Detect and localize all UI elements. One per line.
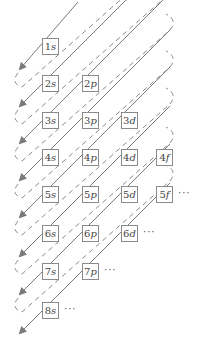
orbital-box-2p: 2p <box>82 75 99 92</box>
orbital-letter: d <box>129 152 135 163</box>
orbital-box-6p: 6p <box>82 225 99 242</box>
orbital-letter: s <box>51 266 56 277</box>
orbital-letter: p <box>90 78 96 89</box>
continuation-ellipsis: ··· <box>64 303 77 314</box>
orbital-letter: p <box>90 228 96 239</box>
orbital-letter: s <box>51 305 56 316</box>
orbital-box-4s: 4s <box>42 149 59 166</box>
orbital-box-4f: 4f <box>156 149 173 166</box>
orbital-box-6s: 6s <box>42 225 59 242</box>
orbital-letter: s <box>51 228 56 239</box>
orbital-letter: p <box>90 152 96 163</box>
orbital-letter: p <box>90 115 96 126</box>
filling-arrow <box>20 2 78 69</box>
continuation-ellipsis: ··· <box>178 187 191 198</box>
orbital-box-3s: 3s <box>42 112 59 129</box>
orbital-box-3p: 3p <box>82 112 99 129</box>
orbital-letter: d <box>129 189 135 200</box>
orbital-letter: p <box>90 189 96 200</box>
continuation-ellipsis: ··· <box>143 226 156 237</box>
orbital-box-3d: 3d <box>121 112 138 129</box>
orbital-letter: s <box>51 189 56 200</box>
orbital-letter: s <box>51 152 56 163</box>
filling-arrows <box>0 0 199 352</box>
orbital-letter: s <box>51 115 56 126</box>
orbital-box-7s: 7s <box>42 263 59 280</box>
orbital-box-5p: 5p <box>82 186 99 203</box>
orbital-box-5s: 5s <box>42 186 59 203</box>
orbital-letter: f <box>166 189 170 200</box>
orbital-box-8s: 8s <box>42 302 59 319</box>
orbital-box-4d: 4d <box>121 149 138 166</box>
orbital-letter: s <box>51 78 56 89</box>
orbital-box-5d: 5d <box>121 186 138 203</box>
orbital-box-2s: 2s <box>42 75 59 92</box>
orbital-letter: s <box>51 41 56 52</box>
orbital-box-4p: 4p <box>82 149 99 166</box>
orbital-box-6d: 6d <box>121 225 138 242</box>
continuation-ellipsis: ··· <box>104 264 117 275</box>
orbital-box-7p: 7p <box>82 263 99 280</box>
orbital-letter: d <box>129 115 135 126</box>
orbital-letter: p <box>90 266 96 277</box>
orbital-letter: d <box>129 228 135 239</box>
orbital-box-5f: 5f <box>156 186 173 203</box>
orbital-letter: f <box>166 152 170 163</box>
aufbau-diagram: 1s2s2p3s3p3d4s4p4d4f5s5p5d5f6s6p6d7s7p8s… <box>0 0 199 352</box>
orbital-box-1s: 1s <box>42 38 59 55</box>
